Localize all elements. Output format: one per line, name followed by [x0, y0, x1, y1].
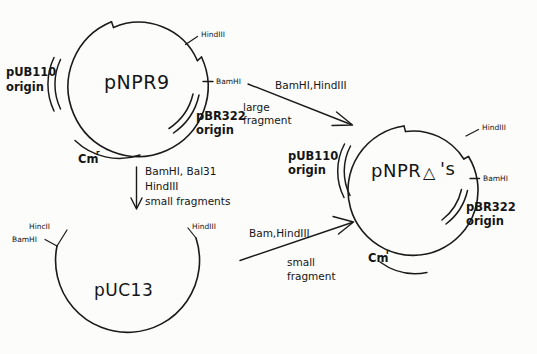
arrow-lower-right-label-below-line1: small: [287, 256, 315, 268]
arrow-upper-right-label-above: BamHI,HindIII: [275, 79, 347, 91]
puc13-site-hincii: HincII: [29, 222, 50, 231]
pnpr-deltas-site-hindiii: HindIII: [482, 123, 506, 132]
pnpr9-pbr322-arc-inner: [169, 94, 193, 129]
pnpr-deltas-pbr322-origin-line2: origin: [466, 214, 504, 228]
pnpr9-site-hindiii: HindIII: [201, 30, 225, 39]
arrow-down-label-line1: BamHI, Bal31: [145, 165, 216, 177]
pnpr9-name: pNPR9: [104, 71, 170, 93]
pnpr-deltas-name-delta: △: [423, 163, 436, 182]
arrow-lower-right-label-above: Bam,HindIII: [249, 227, 310, 239]
figure-canvas: pNPR9 HindIII BamHI pUB110 origin pBR322…: [0, 0, 537, 354]
puc13-site-hindiii: HindIII: [192, 222, 216, 231]
pnpr-deltas-name-part1: pNPR: [371, 160, 421, 181]
pnpr-deltas-pub110-origin-line1: pUB110: [288, 149, 338, 163]
puc13-name: pUC13: [94, 280, 153, 300]
pnpr-deltas-arc-cap-start: [404, 126, 406, 132]
arrow-upper-right-label-below-line2: fragment: [243, 114, 292, 126]
pnpr-deltas-pbr322-arc-outer: [446, 191, 468, 225]
pnpr-deltas-pub110-arc-inner: [344, 146, 350, 196]
pnpr-deltas-insert-arc: [406, 131, 464, 159]
pnpr9-site-bamhi: BamHI: [216, 77, 241, 86]
puc13-site-bamhi: BamHI: [12, 235, 37, 244]
pnpr9-cmr-superscript: r: [96, 148, 100, 157]
pnpr-deltas-site-bamhi: BamHI: [483, 174, 508, 183]
pnpr9-pub110-origin-line2: origin: [6, 80, 44, 94]
pnpr9-pbr322-origin-line2: origin: [196, 123, 234, 137]
pnpr9-arc-cap-end: [197, 57, 201, 61]
pnpr-deltas-pbr322-arc-inner: [442, 190, 462, 221]
pnpr-deltas-pbr322-origin-line1: pBR322: [466, 200, 516, 214]
pnpr-deltas-hindiii-leader: [466, 130, 479, 137]
pnpr9-insert-arc: [114, 22, 198, 60]
plasmid-pnpr-deltas: [338, 126, 480, 274]
arrow-down-label-line2: HindIII: [145, 180, 178, 192]
pnpr9-arc-cap-start: [112, 22, 114, 28]
pnpr-deltas-pub110-origin-line2: origin: [288, 163, 326, 177]
puc13-hincii-leader: [57, 230, 67, 246]
pnpr-deltas-arc-cap-end: [464, 157, 469, 160]
pnpr9-pub110-origin-line1: pUB110: [6, 65, 56, 79]
arrow-down-label-line3: small fragments: [145, 195, 230, 207]
arrow-upper-right-label-below-line1: large: [243, 101, 270, 113]
puc13-bamhi-leader: [45, 240, 57, 247]
pnpr-deltas-cmr-superscript: r: [386, 247, 390, 256]
arrow-down: [131, 167, 142, 209]
pnpr-deltas-name-part2: 's: [440, 158, 455, 179]
plasmid-construction-figure: pNPR9 HindIII BamHI pUB110 origin pBR322…: [0, 0, 537, 354]
pnpr-deltas-backbone: [348, 126, 478, 255]
pnpr9-pbr322-origin-line1: pBR322: [196, 109, 246, 123]
arrow-lower-right-label-below-line2: fragment: [287, 270, 336, 282]
pnpr9-hindiii-leader: [186, 37, 198, 45]
pnpr-deltas-pub110-arc-outer: [338, 144, 345, 198]
